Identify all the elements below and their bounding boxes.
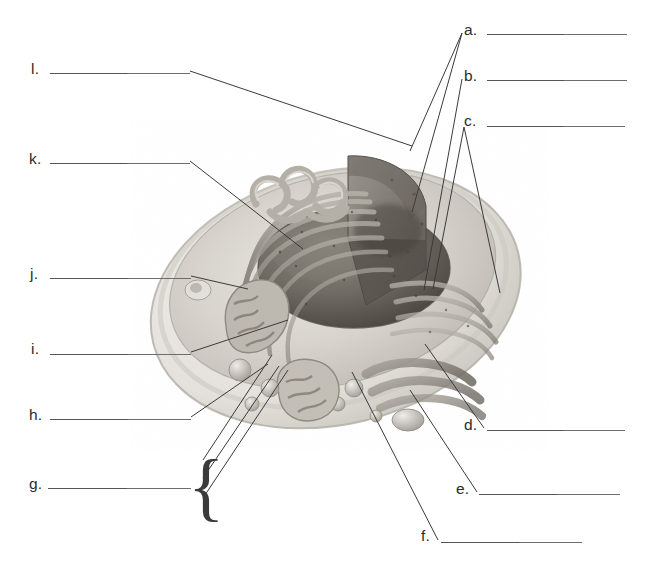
- g-group-brace: {: [188, 448, 224, 524]
- animal-cell-illustration: [130, 120, 550, 450]
- answer-blank-g[interactable]: [48, 488, 191, 489]
- label-letter-b: b.: [464, 68, 477, 84]
- answer-blank-e[interactable]: [479, 494, 620, 495]
- answer-blank-f[interactable]: [441, 542, 582, 543]
- cell-artwork-svg: [130, 120, 550, 450]
- answer-blank-k[interactable]: [50, 163, 190, 164]
- label-letter-a: a.: [464, 22, 477, 38]
- label-letter-j: j.: [30, 266, 38, 282]
- answer-blank-l[interactable]: [50, 73, 190, 74]
- label-letter-d: d.: [464, 417, 477, 433]
- worksheet-page: a.b.c.d.e.f.g.h.i.j.k.l. {: [0, 0, 657, 577]
- label-letter-i: i.: [31, 341, 39, 357]
- label-letter-h: h.: [29, 407, 42, 423]
- answer-blank-c[interactable]: [487, 126, 625, 127]
- label-letter-e: e.: [456, 481, 469, 497]
- answer-blank-a[interactable]: [487, 34, 627, 35]
- answer-blank-b[interactable]: [487, 80, 627, 81]
- answer-blank-i[interactable]: [50, 354, 191, 355]
- answer-blank-j[interactable]: [50, 278, 191, 279]
- label-letter-k: k.: [29, 151, 41, 167]
- answer-blank-h[interactable]: [50, 419, 191, 420]
- answer-blank-d[interactable]: [487, 430, 625, 431]
- label-letter-g: g.: [29, 476, 42, 492]
- label-letter-l: l.: [31, 61, 39, 77]
- label-letter-c: c.: [464, 113, 476, 129]
- label-letter-f: f.: [421, 528, 430, 544]
